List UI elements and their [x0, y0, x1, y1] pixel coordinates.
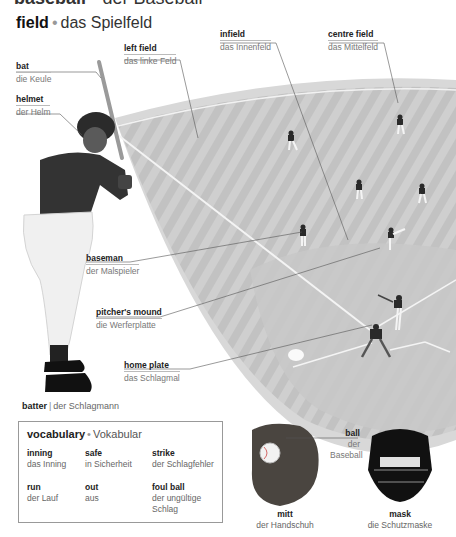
label-helmet: helmet der Helm: [16, 94, 50, 118]
vocabulary-title-de: Vokabular: [93, 428, 142, 440]
label-centre-field-en: centre field: [328, 29, 378, 40]
label-mask: mask die Schutzmaske: [355, 509, 445, 531]
vocab-item: strike der Schlagfehler: [152, 448, 214, 470]
vocab-de: aus: [85, 493, 99, 504]
section-separator: •: [52, 14, 58, 31]
label-infield-de: das Innenfeld: [220, 40, 271, 53]
label-home-plate-en: home plate: [124, 360, 180, 371]
batter-caption-de: der Schlagmann: [53, 401, 119, 411]
label-pitchers-mound-en: pitcher's mound: [96, 307, 162, 318]
label-mitt: mitt der Handschuh: [245, 509, 325, 531]
label-bat-de: die Keule: [16, 72, 51, 85]
label-mask-de: die Schutzmaske: [355, 520, 445, 531]
vocab-en: safe: [85, 448, 132, 459]
label-pitchers-mound: pitcher's mound die Werferplatte: [96, 307, 162, 331]
label-left-field-en: left field: [124, 43, 176, 54]
vocab-item: inning das Inning: [27, 448, 66, 470]
label-baseman-de: der Malspieler: [86, 264, 139, 277]
label-helmet-de: der Helm: [16, 105, 50, 118]
vocab-de: der Lauf: [27, 493, 58, 504]
label-left-field-de: das linke Feld: [124, 54, 176, 67]
label-mitt-de: der Handschuh: [245, 520, 325, 531]
label-pitchers-mound-de: die Werferplatte: [96, 318, 162, 331]
batter-caption: batter|der Schlagmann: [22, 401, 119, 411]
label-ball-en: ball: [330, 428, 360, 439]
label-home-plate-de: das Schlagmal: [124, 371, 180, 384]
mask-image: [368, 429, 432, 502]
label-home-plate: home plate das Schlagmal: [124, 360, 180, 384]
vocab-item: run der Lauf: [27, 482, 58, 504]
mitt-image: [252, 424, 319, 506]
vocab-de: der ungültige Schlag: [152, 493, 217, 515]
batter-caption-separator: |: [49, 401, 51, 411]
label-centre-field-de: das Mittelfeld: [328, 40, 378, 53]
label-helmet-en: helmet: [16, 94, 50, 105]
section-title-de: das Spielfeld: [61, 14, 153, 31]
label-mask-en: mask: [355, 509, 445, 520]
vocab-item: safe in Sicherheit: [85, 448, 132, 470]
label-bat: bat die Keule: [16, 61, 51, 85]
label-infield-en: infield: [220, 29, 271, 40]
vocabulary-title: vocabulary•Vokabular: [27, 428, 214, 440]
vocab-en: out: [85, 482, 99, 493]
label-ball: ball der Baseball: [330, 428, 360, 461]
label-infield: infield das Innenfeld: [220, 29, 271, 53]
label-baseman: baseman der Malspieler: [86, 253, 139, 277]
vocab-en: foul ball: [152, 482, 217, 493]
vocab-de: der Schlagfehler: [152, 459, 214, 470]
batter-caption-en: batter: [22, 401, 47, 411]
label-left-field: left field das linke Feld: [124, 43, 176, 67]
vocab-de: das Inning: [27, 459, 66, 470]
vocabulary-separator: •: [87, 428, 91, 440]
vocab-item: out aus: [85, 482, 99, 504]
section-title: field•das Spielfeld: [16, 14, 152, 32]
vocab-en: strike: [152, 448, 214, 459]
vocabulary-box: vocabulary•Vokabular inning das Inning s…: [18, 421, 223, 523]
section-title-en: field: [16, 14, 49, 31]
vocab-en: run: [27, 482, 58, 493]
label-baseman-en: baseman: [86, 253, 139, 264]
vocabulary-title-en: vocabulary: [27, 428, 85, 440]
label-centre-field: centre field das Mittelfeld: [328, 29, 378, 53]
label-mitt-en: mitt: [245, 509, 325, 520]
label-bat-en: bat: [16, 61, 51, 72]
label-ball-de-1: der: [330, 439, 360, 450]
label-ball-de-2: Baseball: [330, 450, 360, 461]
vocab-de: in Sicherheit: [85, 459, 132, 470]
vocab-en: inning: [27, 448, 66, 459]
vocab-item: foul ball der ungültige Schlag: [152, 482, 217, 515]
